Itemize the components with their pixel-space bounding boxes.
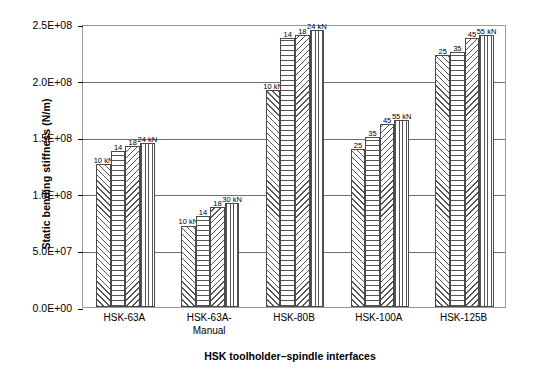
- x-axis-title: HSK toolholder–spindle interfaces: [80, 350, 500, 362]
- y-tick-label: 1.0E+08: [0, 189, 72, 201]
- bar-value-label: 30 kN: [222, 195, 242, 204]
- bar-chart-figure: Static bending stiffness (N/m) 10 kN1418…: [0, 0, 534, 378]
- bar: [225, 203, 240, 307]
- y-tick-label: 2.0E+08: [0, 76, 72, 88]
- bar: [266, 90, 281, 307]
- plot-area: 10 kN141824 kN10 kN141830 kN10 kN141824 …: [82, 25, 506, 308]
- bar-value-label: 18: [298, 27, 306, 36]
- bar-value-label: 35: [368, 129, 376, 138]
- bar-value-label: 14: [284, 30, 292, 39]
- bar: [394, 120, 409, 307]
- bar-value-label: 55 kN: [392, 112, 412, 121]
- bar: [295, 35, 310, 307]
- bar-value-label: 14: [114, 143, 122, 152]
- bar-value-label: 45: [383, 116, 391, 125]
- bar-value-label: 24 kN: [307, 22, 327, 31]
- y-tick-mark: [78, 139, 83, 140]
- y-tick-mark: [78, 195, 83, 196]
- y-tick-mark: [78, 252, 83, 253]
- y-tick-mark: [78, 82, 83, 83]
- bar: [380, 124, 395, 307]
- bar-value-label: 25: [354, 141, 362, 150]
- bar: [96, 164, 111, 307]
- bar: [140, 143, 155, 307]
- bar: [210, 207, 225, 307]
- y-tick-label: 0.0E+00: [0, 302, 72, 314]
- bar: [435, 55, 450, 307]
- bar-value-label: 14: [199, 208, 207, 217]
- y-tick-mark: [78, 26, 83, 27]
- x-tick-label: HSK-63A- Manual: [187, 312, 232, 337]
- x-tick-label: HSK-125B: [440, 312, 487, 325]
- bar: [111, 151, 126, 307]
- bar: [196, 216, 211, 307]
- bar-value-label: 18: [129, 138, 137, 147]
- y-tick-label: 2.5E+08: [0, 19, 72, 31]
- bar: [465, 38, 480, 307]
- bar-value-label: 45: [468, 30, 476, 39]
- bar-value-label: 24 kN: [138, 135, 158, 144]
- y-tick-mark: [78, 309, 83, 310]
- bar: [310, 30, 325, 307]
- bar: [181, 226, 196, 308]
- bar: [450, 52, 465, 307]
- bar-value-label: 18: [213, 199, 221, 208]
- y-tick-label: 5.0E+07: [0, 245, 72, 257]
- bar-value-label: 25: [439, 47, 447, 56]
- y-tick-label: 1.5E+08: [0, 132, 72, 144]
- bar: [365, 137, 380, 307]
- x-tick-label: HSK-100A: [355, 312, 402, 325]
- bar: [280, 38, 295, 307]
- bar-value-label: 55 kN: [477, 27, 497, 36]
- bar: [125, 146, 140, 307]
- x-tick-label: HSK-80B: [273, 312, 315, 325]
- x-tick-label: HSK-63A: [104, 312, 146, 325]
- bar: [351, 149, 366, 307]
- bar: [479, 35, 494, 307]
- bar-value-label: 35: [453, 44, 461, 53]
